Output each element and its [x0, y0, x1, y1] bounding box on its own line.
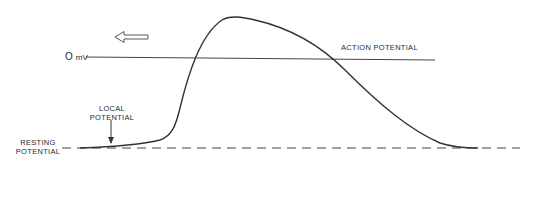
zero-mv-unit: mV — [76, 53, 89, 62]
action-potential-diagram: O mV ACTION POTENTIAL LOCAL POTENTIAL RE… — [0, 0, 536, 200]
resting-potential-label: RESTING POTENTIAL — [14, 138, 62, 156]
zero-mv-label: O mV — [65, 52, 88, 62]
resting-potential-label-line2: POTENTIAL — [14, 147, 62, 156]
zero-mv-value: O — [65, 51, 73, 62]
resting-potential-label-line1: RESTING — [14, 138, 62, 147]
direction-arrow-icon — [115, 32, 148, 43]
action-potential-label: ACTION POTENTIAL — [341, 43, 418, 52]
zero-mv-line — [86, 57, 435, 60]
local-potential-label-line1: LOCAL — [88, 104, 136, 113]
local-potential-label: LOCAL POTENTIAL — [88, 104, 136, 122]
diagram-canvas — [0, 0, 536, 200]
local-potential-arrow-icon — [108, 120, 114, 144]
local-potential-label-line2: POTENTIAL — [88, 113, 136, 122]
